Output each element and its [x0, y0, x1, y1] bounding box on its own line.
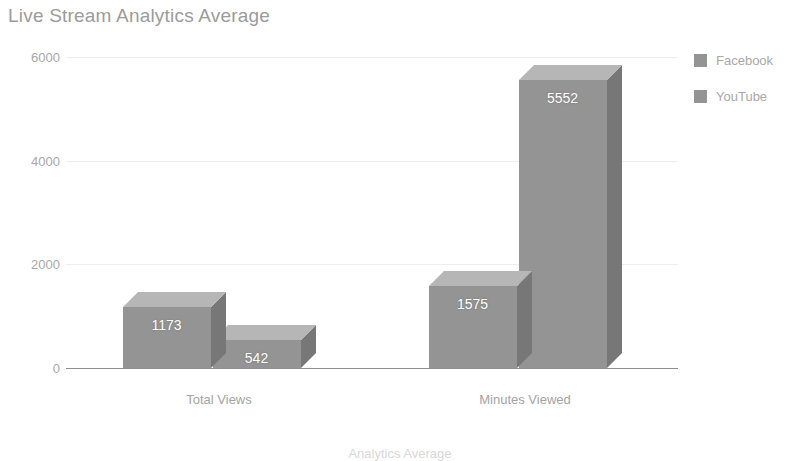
- axis-baseline: [66, 368, 678, 369]
- bar-facebook-total-views[interactable]: 1173: [123, 307, 211, 368]
- y-axis: 0200040006000: [0, 57, 60, 368]
- bars-layer: 117354215755552: [66, 57, 678, 368]
- x-axis-title: Analytics Average: [0, 446, 800, 461]
- x-axis-category-labels: Total ViewsMinutes Viewed: [66, 392, 678, 412]
- bar-side-face: [517, 271, 532, 368]
- bar-facebook-minutes-viewed[interactable]: 1575: [429, 286, 517, 368]
- y-axis-tick-label: 0: [2, 361, 60, 376]
- bar-top-face: [429, 271, 532, 286]
- legend-swatch-icon: [694, 54, 707, 67]
- bar-top-face: [213, 325, 316, 340]
- x-axis-category-label: Minutes Viewed: [479, 392, 571, 407]
- y-axis-tick-label: 6000: [2, 50, 60, 65]
- bar-value-label: 1173: [123, 317, 211, 333]
- legend-label: Facebook: [716, 53, 773, 68]
- y-axis-tick-label: 2000: [2, 257, 60, 272]
- bar-side-face: [607, 65, 622, 368]
- bar-top-face: [123, 292, 226, 307]
- chart-title: Live Stream Analytics Average: [8, 4, 270, 28]
- x-axis-category-label: Total Views: [186, 392, 252, 407]
- chart-legend: FacebookYouTube: [694, 48, 800, 120]
- legend-swatch-icon: [694, 90, 707, 103]
- legend-label: YouTube: [716, 89, 767, 104]
- bar-value-label: 1575: [429, 296, 517, 312]
- legend-item-facebook[interactable]: Facebook: [694, 48, 800, 72]
- bar-top-face: [519, 65, 622, 80]
- bar-value-label: 5552: [519, 90, 607, 106]
- y-axis-tick-label: 4000: [2, 153, 60, 168]
- legend-item-youtube[interactable]: YouTube: [694, 84, 800, 108]
